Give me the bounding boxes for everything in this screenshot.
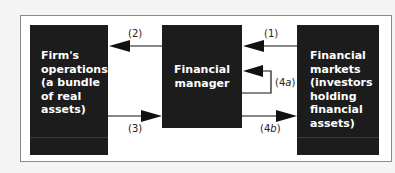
arrow-2-label: (2) bbox=[128, 28, 142, 39]
box-line: Financial bbox=[310, 49, 379, 63]
arrow-3-label: (3) bbox=[128, 123, 142, 134]
arrow-4a bbox=[242, 65, 271, 93]
box-line: holding bbox=[310, 90, 379, 104]
arrow-1 bbox=[243, 40, 297, 52]
label-prefix: (4 bbox=[275, 77, 285, 88]
box-line: of real bbox=[41, 90, 108, 104]
arrow-4b-label: (4b) bbox=[260, 123, 281, 134]
box-line: operations bbox=[41, 63, 108, 77]
box-line: financial bbox=[310, 103, 379, 117]
box-line: Financial bbox=[162, 63, 242, 77]
arrow-3 bbox=[108, 110, 162, 122]
firms-operations-box: Firm's operations (a bundle of real asse… bbox=[30, 25, 108, 155]
label-suffix: ) bbox=[291, 77, 295, 88]
financial-markets-box: Financial markets (investors holding fin… bbox=[297, 25, 379, 155]
box-line: (investors bbox=[310, 76, 379, 90]
arrow-4a-label: (4a) bbox=[275, 77, 295, 88]
financial-manager-box: Financial manager bbox=[162, 25, 242, 128]
arrow-4b bbox=[242, 110, 297, 122]
box-band bbox=[30, 137, 108, 138]
arrow-1-label: (1) bbox=[264, 28, 278, 39]
label-suffix: ) bbox=[277, 123, 281, 134]
box-line: markets bbox=[310, 63, 379, 77]
arrow-2 bbox=[109, 40, 162, 52]
box-line: assets) bbox=[41, 103, 108, 117]
label-prefix: (4 bbox=[260, 123, 270, 134]
box-line: manager bbox=[162, 77, 242, 91]
box-band bbox=[297, 137, 379, 138]
box-line: Firm's bbox=[41, 49, 108, 63]
box-line: (a bundle bbox=[41, 76, 108, 90]
box-line: assets) bbox=[310, 117, 379, 131]
